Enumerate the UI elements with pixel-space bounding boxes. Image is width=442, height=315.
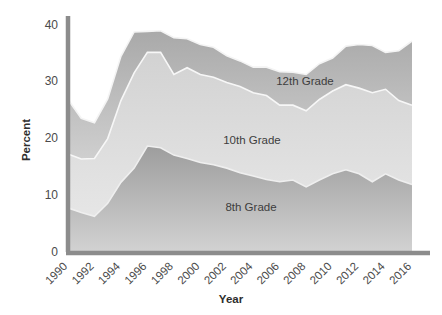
y-tick-10: 10	[45, 188, 59, 202]
chart-container: 010203040 199019921994199619982000200220…	[0, 0, 442, 315]
x-axis-title: Year	[219, 293, 244, 305]
series-label-grade8: 8th Grade	[225, 201, 276, 213]
y-tick-20: 20	[45, 131, 59, 145]
series-label-grade10: 10th Grade	[223, 134, 281, 146]
y-axis-title: Percent	[20, 119, 32, 161]
y-tick-40: 40	[45, 18, 59, 32]
y-tick-30: 30	[45, 74, 59, 88]
y-tick-0: 0	[51, 245, 58, 259]
stacked-area-chart: 010203040 199019921994199619982000200220…	[0, 0, 442, 315]
series-label-grade12: 12th Grade	[276, 75, 334, 87]
